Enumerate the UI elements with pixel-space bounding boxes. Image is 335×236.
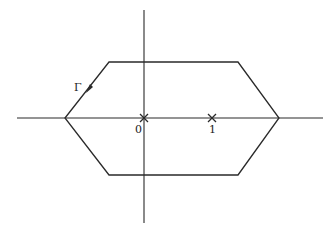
zero-label: 0	[135, 123, 142, 136]
one-label: 1	[209, 123, 216, 136]
contour-diagram: Γ 0 1	[0, 0, 335, 236]
contour-arrow-icon	[86, 84, 93, 93]
gamma-label: Γ	[74, 81, 82, 94]
